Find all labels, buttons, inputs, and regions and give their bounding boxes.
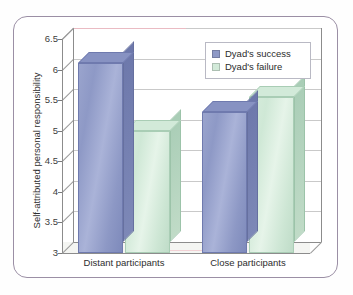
- right-back-line: [321, 28, 322, 242]
- legend-item-dyads-success: Dyad's success: [212, 47, 304, 60]
- bar-side-face: [294, 75, 305, 242]
- legend-swatch-dyads-success: [212, 50, 220, 58]
- chart-legend: Dyad's success Dyad's failure: [205, 42, 311, 79]
- legend-label-dyads-success: Dyad's success: [225, 49, 291, 59]
- bar-dyads-success: [202, 112, 247, 253]
- bar-side-face: [123, 41, 134, 242]
- x-axis-line: [62, 253, 310, 254]
- scan-artifact-top: [74, 28, 186, 29]
- plot-area: 6.565.554.543.53 Distant participantsClo…: [0, 0, 353, 295]
- bar-side-face: [247, 90, 258, 242]
- legend-item-dyads-failure: Dyad's failure: [212, 60, 304, 73]
- y-axis-back-line: [73, 28, 74, 243]
- legend-swatch-dyads-failure: [212, 63, 220, 71]
- x-tick-label: Close participants: [188, 258, 308, 268]
- axis-depth-connector-bottom-right: [310, 242, 322, 254]
- x-tick-label: Distant participants: [64, 258, 184, 268]
- bar-front-face: [78, 63, 123, 253]
- legend-label-dyads-failure: Dyad's failure: [225, 62, 282, 72]
- figure-container: 6.565.554.543.53 Distant participantsClo…: [0, 0, 353, 295]
- y-axis-title: Self-attributed personal responsibility: [31, 41, 42, 261]
- bar-dyads-success: [78, 63, 123, 253]
- bar-front-face: [202, 112, 247, 253]
- y-axis-line: [62, 39, 63, 254]
